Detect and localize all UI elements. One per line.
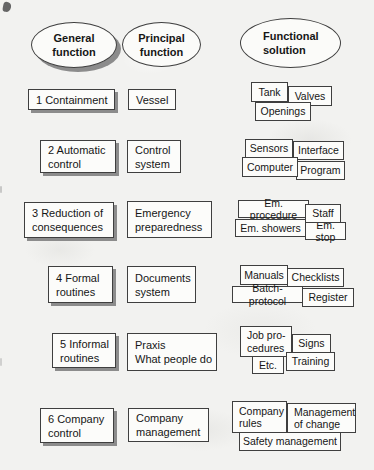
solution-box-sensors: Sensors [245,139,293,158]
box-label: 3 Reduction of consequences [32,206,103,234]
box-label: Control system [135,143,170,171]
box-label: Company management [136,411,200,439]
solution-box-em-showers: Em. showers [235,219,306,237]
principal-function-box-company-management: Company management [128,408,209,442]
principal-function-box-vessel: Vessel [128,89,176,110]
solution-box-tank: Tank [251,82,288,102]
principal-function-box-emergency-preparedness: Emergency preparedness [127,201,212,238]
box-label: Em. procedure [241,197,306,222]
solution-box-register: Register [302,288,354,307]
solution-box-em-procedure: Em. procedure [238,200,309,218]
scan-artifact-edge [0,358,2,366]
solution-box-computer: Computer [242,157,298,177]
box-label: Tank [258,86,280,99]
box-label: Sensors [250,142,289,155]
box-label: Computer [247,161,293,174]
box-label: Openings [261,105,306,118]
principal-function-box-documents-system: Documents system [127,266,196,303]
box-label: Emergency preparedness [135,206,202,234]
box-label: Job pro- cedures [247,329,286,354]
solution-box-program: Program [296,161,345,180]
box-label: Staff [312,207,333,220]
header-label-general-function: General function [52,31,95,59]
solution-box-em-stop: Em. stop [305,222,346,240]
principal-function-box-control-system: Control system [127,140,181,173]
box-label: 6 Company control [48,412,104,440]
general-function-box-4-formal-routines: 4 Formal routines [48,266,113,303]
box-label: Manuals [244,269,284,282]
header-ellipse-principal-function: Principal function [122,22,201,67]
box-label: Management of change [294,406,355,431]
scan-artifact-edge [0,186,2,193]
box-label: Program [300,164,340,177]
box-label: Praxis What people do [135,338,212,366]
box-label: Safety management [243,435,337,448]
scan-artifact-corner [2,1,12,12]
solution-box-training: Training [286,352,335,371]
box-label: Company rules [239,405,284,430]
box-label: Em. showers [240,222,301,235]
header-ellipse-general-function: General function [31,22,117,68]
solution-box-management-of-change: Management of change [287,403,356,433]
solution-box-signs: Signs [292,334,331,353]
box-label: Documents system [135,271,191,299]
box-label: Register [308,291,347,304]
solution-box-etc: Etc. [252,356,284,374]
box-label: Training [292,355,330,368]
box-label: 1 Containment [36,93,108,107]
solution-box-openings: Openings [255,102,311,121]
general-function-box-3-reduction-of-consequences: 3 Reduction of consequences [24,202,114,238]
box-label: 2 Automatic control [48,143,105,171]
box-label: Valves [295,90,326,103]
header-ellipse-functional-solution: Functional solution [240,18,341,68]
box-label: Vessel [136,93,168,107]
diagram-canvas: General function Principal function Func… [0,0,374,470]
solution-box-staff: Staff [305,204,341,223]
solution-box-company-rules: Company rules [232,401,287,433]
header-label-principal-function: Principal function [138,31,184,59]
solution-box-job-procedures: Job pro- cedures [240,326,292,357]
solution-box-batch-protocol: Batch-protocol [232,286,303,303]
box-label: Etc. [259,359,277,372]
box-label: 5 Informal routines [60,337,109,365]
general-function-box-5-informal-routines: 5 Informal routines [52,333,116,368]
general-function-box-6-company-control: 6 Company control [40,408,114,443]
general-function-box-1-containment: 1 Containment [28,89,115,110]
solution-box-safety-management: Safety management [239,432,341,451]
box-label: Signs [298,337,324,350]
header-label-functional-solution: Functional solution [263,29,319,57]
box-label: Batch-protocol [235,282,300,307]
solution-box-interface: Interface [293,141,344,160]
box-label: Interface [298,144,339,157]
box-label: 4 Formal routines [56,271,99,299]
general-function-box-2-automatic-control: 2 Automatic control [40,140,116,173]
principal-function-box-praxis: Praxis What people do [127,333,217,371]
